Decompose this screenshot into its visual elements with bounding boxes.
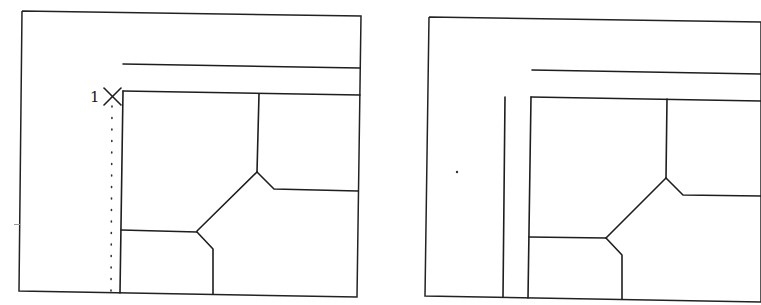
upper-divider [666, 99, 667, 178]
lower-branch [197, 232, 213, 294]
left-branch [529, 237, 606, 238]
x-cross-marker-icon [104, 88, 121, 105]
offset-vertical-line [503, 97, 505, 297]
left-branch [121, 230, 197, 232]
dotted-guide-line [111, 106, 112, 291]
right-branch [257, 172, 358, 191]
upper-divider [257, 94, 259, 172]
point-label: 1 [90, 88, 100, 106]
inner-rect-left [528, 97, 531, 298]
diagonal-branch [606, 178, 666, 238]
inner-rect-top [123, 91, 360, 95]
outer-wall-line [123, 64, 360, 68]
stray-mark [14, 224, 20, 225]
pick-point-dot [456, 171, 458, 173]
lower-branch [606, 238, 622, 299]
diagonal-branch [197, 172, 257, 231]
inner-rect-left [120, 91, 123, 293]
outer-wall-line [532, 70, 761, 74]
panel-after [425, 17, 761, 302]
panel-before: 1 [19, 11, 361, 297]
cad-diagram: 1 [0, 0, 761, 305]
panel-frame [19, 11, 361, 297]
panel-frame [425, 17, 761, 302]
right-branch [666, 178, 761, 196]
inner-rect-top [531, 97, 761, 101]
